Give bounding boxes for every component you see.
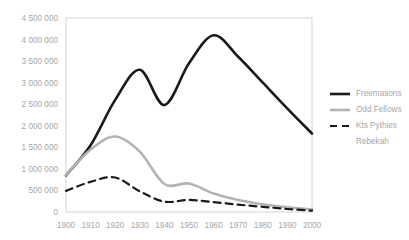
- legend-label-kts-pythies[interactable]: Kts Pythies: [356, 121, 397, 130]
- x-axis-tick-label: 1930: [131, 221, 150, 230]
- x-axis-tick-label: 1910: [81, 221, 100, 230]
- chart-container: 0500 0001 000 0001 500 0002 000 0002 500…: [0, 0, 409, 240]
- series-line-freemasons: [66, 35, 312, 175]
- x-axis-tick-labels: 1900191019201930194019501960197019801990…: [57, 221, 322, 230]
- x-axis-tick-label: 1980: [254, 221, 273, 230]
- y-axis-tick-label: 3 500 000: [22, 57, 59, 66]
- legend-label-freemasons[interactable]: Freemasons: [356, 89, 402, 98]
- y-axis-tick-label: 0: [53, 208, 58, 217]
- x-axis-tick-label: 1950: [180, 221, 199, 230]
- x-axis-tick-label: 1920: [106, 221, 125, 230]
- legend-label-odd-fellows[interactable]: Odd Fellows: [356, 105, 402, 114]
- y-axis-tick-label: 4 000 000: [22, 36, 59, 45]
- legend-label-rebekah[interactable]: Rebekah: [356, 137, 389, 146]
- x-axis-tick-label: 1970: [229, 221, 248, 230]
- x-axis-tick-label: 1960: [204, 221, 223, 230]
- y-axis-tick-label: 1 000 000: [22, 165, 59, 174]
- x-axis-tick-label: 1990: [278, 221, 297, 230]
- x-axis-tick-label: 2000: [303, 221, 322, 230]
- y-axis-tick-label: 3 000 000: [22, 79, 59, 88]
- y-axis-tick-label: 500 000: [28, 186, 58, 195]
- y-axis-tick-label: 4 500 000: [22, 14, 59, 23]
- y-axis-tick-label: 1 500 000: [22, 143, 59, 152]
- y-axis-tick-labels: 0500 0001 000 0001 500 0002 000 0002 500…: [22, 14, 59, 217]
- x-axis-tick-label: 1940: [155, 221, 174, 230]
- line-chart: 0500 0001 000 0001 500 0002 000 0002 500…: [0, 0, 409, 240]
- x-axis-tick-label: 1900: [57, 221, 76, 230]
- series-line-odd-fellows: [66, 137, 312, 210]
- data-series-group: [66, 35, 312, 211]
- y-axis-tick-label: 2 500 000: [22, 100, 59, 109]
- y-axis-tick-label: 2 000 000: [22, 122, 59, 131]
- chart-legend: FreemasonsOdd FellowsKts PythiesRebekah: [330, 89, 402, 146]
